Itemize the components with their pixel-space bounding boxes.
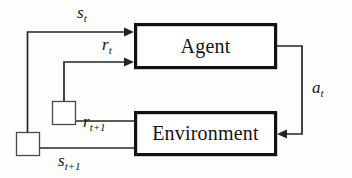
signal-subscript-action-t: t <box>321 87 324 99</box>
diagram-canvas: Agent Environment st rt at rt+1 st+1 <box>0 0 352 178</box>
signal-subscript-reward-t: t <box>109 44 112 56</box>
edge-reward-t <box>64 62 128 101</box>
signal-subscript-state-t-plus-1: t+1 <box>65 160 81 172</box>
signal-subscript-reward-t-plus-1: t+1 <box>90 121 106 133</box>
environment-label: Environment <box>134 122 277 145</box>
signal-subscript-state-t: t <box>84 12 87 24</box>
signal-symbol-reward-t: r <box>102 35 109 54</box>
signal-symbol-action-t: a <box>312 78 321 97</box>
edge-state-t <box>28 32 129 132</box>
signal-label-reward-t: rt <box>102 36 112 56</box>
arrowhead-state-t <box>124 28 134 37</box>
arrowhead-reward-t <box>124 58 134 67</box>
signal-symbol-state-t-plus-1: s <box>58 151 65 170</box>
state-delay-box <box>17 133 40 156</box>
signal-label-state-t-plus-1: st+1 <box>58 152 81 172</box>
signal-symbol-state-t: s <box>77 3 84 22</box>
diagram-svg <box>0 0 352 178</box>
agent-label: Agent <box>134 35 277 58</box>
signal-symbol-reward-t-plus-1: r <box>83 112 90 131</box>
reward-delay-box <box>53 102 76 125</box>
signal-label-action-t: at <box>312 79 324 99</box>
signal-label-state-t: st <box>77 4 87 24</box>
edge-action-t <box>277 46 302 134</box>
arrowhead-action-t <box>277 130 287 139</box>
signal-label-reward-t-plus-1: rt+1 <box>83 113 106 133</box>
